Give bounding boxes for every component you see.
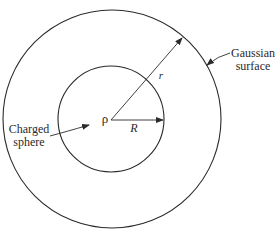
charge-density-symbol: ρ xyxy=(100,112,110,125)
radius-r-arrow xyxy=(111,38,182,120)
charged-sphere-label: Charged sphere xyxy=(6,123,52,149)
charged-sphere-circle xyxy=(58,66,164,172)
sphere-radius-label: R xyxy=(128,122,140,135)
charged-sphere-pointer-arrow xyxy=(50,125,89,136)
charged-sphere-label-line2: sphere xyxy=(6,136,52,149)
diagram-canvas xyxy=(0,0,277,241)
gaussian-radius-label: r xyxy=(156,69,166,82)
gaussian-surface-pointer-arrow xyxy=(207,53,230,65)
gaussian-surface-label-line2: surface xyxy=(228,60,277,73)
gaussian-surface-label: Gaussian surface xyxy=(228,47,277,73)
